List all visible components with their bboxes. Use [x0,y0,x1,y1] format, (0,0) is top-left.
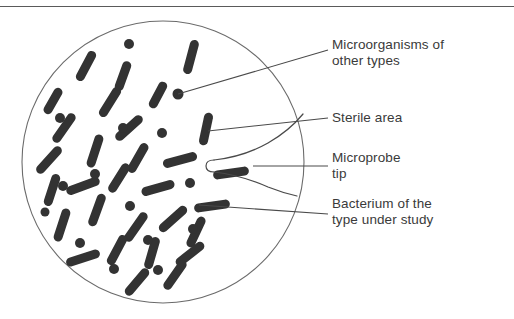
bacterium-rod [119,66,127,87]
bacterium-rod [48,179,55,202]
microorganism-dot [75,238,85,248]
bacterium-rod [71,254,96,262]
microorganism-dot [143,235,153,245]
bacterium-rod [71,182,95,191]
bacterium-rod [93,198,102,221]
bacterium-rod [91,139,99,163]
bacterium-rod [180,246,200,261]
label-bacterium-of-the-type-under-study: Bacterium of the type under study [332,196,433,227]
label-microorganisms-of-other-types: Microorganisms of other types [332,37,444,68]
bacterium-rod [167,157,192,164]
bacterium-rod [153,86,162,104]
microorganism-dot [185,178,195,188]
microorganism-dot [125,201,135,211]
microorganism-dot [157,128,167,138]
bacterium-rod [168,265,182,285]
bacterium-rod [48,92,58,109]
bacterium-rod [111,239,122,260]
microprobe-upper-edge [214,114,303,160]
bacterium-rod [146,185,170,192]
bacterium-rod [103,91,116,112]
leader-lines-group [178,50,328,214]
bacterium-rod [188,44,195,69]
microprobe-tip-cap [206,160,214,172]
microorganism-dot [153,265,163,275]
bacterium-rod [149,241,156,264]
label-sterile-area: Sterile area [332,110,402,126]
bacterium-rod [80,55,91,76]
microorganism-dot [58,181,68,191]
bacterium-rod [58,213,66,237]
bacterium-rod [129,273,144,291]
microorganism-dot [41,208,50,217]
bacterium-rod [113,168,126,188]
microorganism-dot [124,39,134,49]
leader-microorganisms [178,50,328,94]
bacterium-rod [132,148,144,169]
microorganism-dot [55,113,65,123]
petri-dish-outline [22,21,304,303]
microorganism-dot [118,123,128,133]
bacterium-rod [204,117,209,140]
bacterium-rod [129,217,143,237]
label-microprobe-tip: Microprobe tip [332,150,401,181]
bacterium-rod [163,210,182,227]
bacteria-rods-group [41,44,245,291]
figure-container: Microorganisms of other types Sterile ar… [0,0,514,319]
bacterium-rod [41,151,58,170]
microorganism-dot [90,169,100,179]
microorganism-dot [109,264,119,274]
microorganism-dot [188,224,198,234]
leader-sterile [208,118,328,131]
